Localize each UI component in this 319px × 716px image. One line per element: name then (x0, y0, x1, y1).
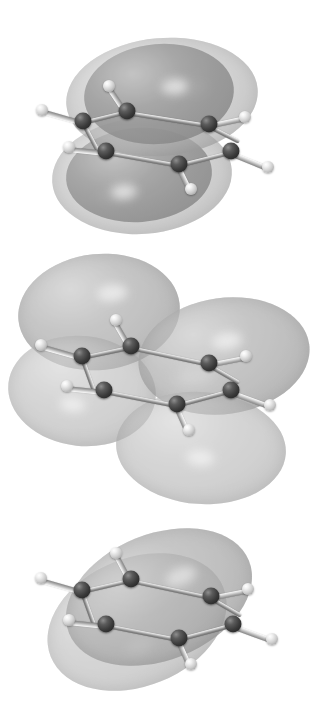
carbon-atom (201, 355, 218, 372)
hydrogen-atom (35, 572, 47, 584)
hydrogen-atom (36, 104, 48, 116)
carbon-atom (75, 113, 92, 130)
hydrogen-atom (35, 339, 47, 351)
bond-c2-c3 (130, 579, 211, 600)
hydrogen-atom (61, 380, 73, 392)
hydrogen-atom (110, 314, 122, 326)
hydrogen-atom (110, 547, 122, 559)
orbital-stage-bottom (0, 510, 319, 716)
hydrogen-atom (185, 658, 197, 670)
hydrogen-atom (239, 111, 251, 123)
hydrogen-atom (266, 633, 278, 645)
benzene-ball-and-stick-bottom (0, 510, 319, 716)
hydrogen-atom (240, 350, 252, 362)
hydrogen-atom (242, 583, 254, 595)
carbon-atom (74, 582, 91, 599)
orbital-panel-middle (0, 240, 319, 510)
carbon-atom (74, 348, 91, 365)
hydrogen-atom (185, 183, 197, 195)
carbon-atom (119, 103, 136, 120)
carbon-atom (225, 616, 242, 633)
orbital-stage-middle (0, 240, 319, 510)
bond-c2-c3 (126, 111, 208, 128)
bond-c5-c6 (104, 390, 177, 408)
benzene-ball-and-stick-middle (0, 240, 319, 510)
orbital-panel-top (0, 0, 319, 240)
carbon-atom (123, 571, 140, 588)
carbon-atom (203, 588, 220, 605)
hydrogen-atom (103, 80, 115, 92)
bond-c2-c3 (130, 346, 209, 367)
carbon-atom (123, 338, 140, 355)
carbon-atom (171, 630, 188, 647)
bond-c5-c6 (106, 624, 179, 642)
benzene-ball-and-stick-top (0, 0, 319, 240)
carbon-atom (169, 396, 186, 413)
carbon-atom (98, 616, 115, 633)
benzene-pi-orbital-figure (0, 0, 319, 716)
hydrogen-atom (63, 141, 75, 153)
bond-c5-c6 (106, 151, 180, 168)
hydrogen-atom (183, 424, 195, 436)
orbital-stage-top (0, 0, 319, 240)
orbital-panel-bottom (0, 510, 319, 716)
hydrogen-atom (264, 399, 276, 411)
carbon-atom (98, 143, 115, 160)
carbon-atom (171, 156, 188, 173)
carbon-atom (223, 382, 240, 399)
carbon-atom (201, 116, 218, 133)
hydrogen-atom (262, 161, 274, 173)
hydrogen-atom (63, 614, 75, 626)
carbon-atom (96, 382, 113, 399)
carbon-atom (223, 143, 240, 160)
